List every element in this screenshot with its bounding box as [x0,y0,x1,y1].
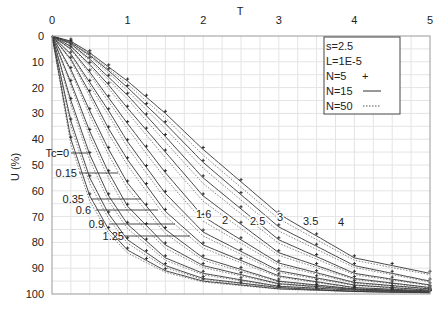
y-tick-label: 50 [32,159,44,171]
y-tick-label: 100 [26,288,44,300]
x-tick-label: 5 [427,14,433,26]
curve-label: 2 [222,214,228,226]
plus-marker-icon: + [362,70,368,82]
plus-marker-icon [69,136,72,139]
curve-label: 0.6 [76,204,91,216]
y-tick-label: 90 [32,262,44,274]
y-tick-label: 60 [32,185,44,197]
y-tick-label: 0 [38,30,44,42]
x-tick-label: 4 [351,14,357,26]
y-tick-label: 20 [32,82,44,94]
curve-label: 0.15 [56,167,77,179]
curve-label: 1.6 [196,208,211,220]
plus-marker-icon [126,203,129,206]
x-tick-label: 1 [125,14,131,26]
plus-marker-icon [107,125,110,128]
plus-marker-icon [126,156,129,159]
legend-param-l: L=1E-5 [326,55,362,67]
legend-entry-n50: N=50 [326,100,353,112]
consolidation-chart: 012345 0102030405060708090100 T U (%) Tc… [0,0,444,315]
x-axis-label: T [237,5,244,17]
plus-marker-icon [88,89,91,92]
curve-label: 2.5 [250,215,265,227]
x-tick-label: 3 [276,14,282,26]
y-tick-label: 10 [32,56,44,68]
plus-marker-icon [391,276,394,279]
legend-entry-n15: N=15 [326,85,353,97]
y-tick-label: 40 [32,133,44,145]
plus-marker-icon [202,270,205,273]
plus-marker-icon [69,66,72,69]
plus-marker-icon [202,275,205,278]
plus-marker-icon [315,274,318,277]
plus-marker-icon [239,257,242,260]
curve-label: 1.25 [103,230,124,242]
y-tick-label: 30 [32,107,44,119]
plus-marker-icon [277,277,280,280]
legend-entry-n5: N=5 [326,70,347,82]
plus-marker-icon [315,269,318,272]
curve-label: 3 [277,211,283,223]
x-tick-label: 0 [49,14,55,26]
curve-label: 4 [338,216,344,228]
plus-marker-icon [391,262,394,265]
curve-label: 3.5 [303,215,318,227]
y-axis-label: U (%) [9,153,21,181]
y-tick-labels: 0102030405060708090100 [26,30,44,300]
plus-marker-icon [239,276,242,279]
plus-marker-icon [107,210,110,213]
y-tick-label: 80 [32,236,44,248]
curve-label: Tc=0 [45,147,69,159]
plus-marker-icon [107,226,110,229]
x-tick-label: 2 [200,14,206,26]
y-tick-label: 70 [32,211,44,223]
legend-param-s: s=2.5 [326,40,353,52]
plus-marker-icon [391,270,394,273]
curve-label: 0.9 [89,218,104,230]
legend: s=2.5 L=1E-5 N=5 + N=15 N=50 [324,37,400,114]
plus-marker-icon [126,179,129,182]
plus-marker-icon [315,262,318,265]
plus-marker-icon [353,275,356,278]
plus-marker-icon [126,138,129,141]
